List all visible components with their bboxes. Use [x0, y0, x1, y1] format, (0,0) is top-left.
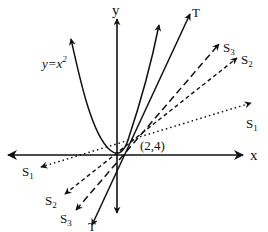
secant-line-s3: S3 S3 — [60, 40, 235, 228]
secant-s1-label-right: S1 — [246, 116, 258, 133]
secant-line-s2: S2 S2 — [45, 52, 253, 210]
secant-s1-line — [41, 103, 251, 167]
parabola-label: y=x2 — [40, 54, 67, 71]
secant-s3-label-top: S3 — [223, 40, 235, 57]
parabola-curve — [71, 25, 159, 153]
y-axis-label: y — [112, 2, 120, 18]
secant-s2-line — [65, 58, 237, 194]
point-label: (2,4) — [140, 138, 165, 153]
tangent-label-top: T — [192, 5, 200, 20]
secant-s3-label-bottom: S3 — [60, 211, 72, 228]
tangent-line-t: T T — [88, 5, 200, 232]
x-axis-label: x — [250, 147, 258, 163]
tangent-label-bottom: T — [88, 219, 96, 232]
secant-tangent-diagram: x y y=x2 T T S3 S3 S2 S2 S1 S1 (2,4) — [0, 0, 268, 232]
secant-s2-label-bottom: S2 — [45, 193, 57, 210]
axes: x y — [8, 2, 258, 213]
secant-s1-label-left: S1 — [22, 164, 34, 181]
tangent-line — [92, 14, 190, 225]
secant-s2-label-top: S2 — [241, 52, 253, 69]
secant-s3-line — [76, 44, 219, 210]
